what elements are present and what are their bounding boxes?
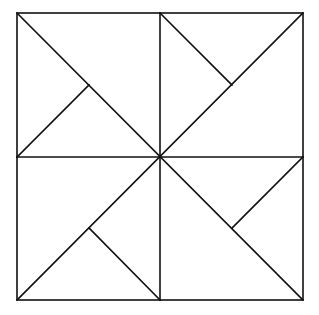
tl-inner-line [17, 85, 89, 157]
pinwheel-diagram [0, 0, 319, 315]
bl-inner-line [89, 228, 160, 300]
diagram-svg [0, 0, 319, 315]
tr-inner-line [160, 13, 232, 85]
diagram-lines [17, 13, 303, 300]
br-inner-line [232, 157, 303, 228]
